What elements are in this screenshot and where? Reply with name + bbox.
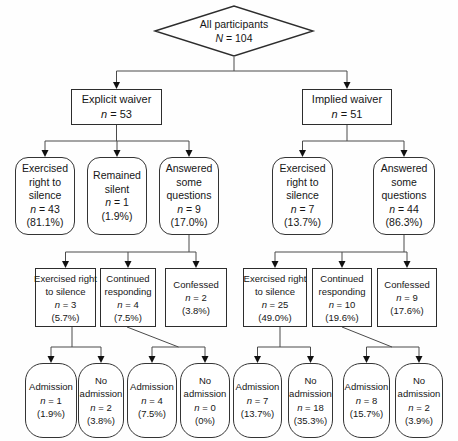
node-n-value: n = 8	[356, 394, 377, 408]
node-exercised-silence-implied: Exercised right to silence n = 7 (13.7%)	[272, 157, 333, 235]
node-no-admission-implied-responding: No admission n = 2 (3.9%)	[395, 363, 443, 438]
node-n-value: n = 1	[40, 394, 61, 408]
node-admission-explicit-responding: Admission n = 4 (7.5%)	[127, 363, 177, 438]
node-label: Answered some questions	[381, 162, 428, 203]
node-n-value: n = 53	[101, 107, 132, 122]
node-n-value: n = 9	[396, 291, 417, 304]
node-percent: (35.3%)	[294, 414, 327, 428]
flowchart-canvas: All participants N = 104 Explicit waiver…	[0, 0, 458, 441]
node-label: Remained silent	[93, 169, 141, 196]
node-label: Exercised right to silence	[244, 272, 307, 298]
node-n-value: n = 7	[291, 203, 315, 217]
connector-answered-explicit-to-outcomes	[62, 235, 200, 268]
node-percent: (81.1%)	[27, 216, 64, 230]
node-n-value: n = 2	[185, 291, 206, 304]
node-outcome-continued-responding-explicit: Continued responding n = 4 (7.5%)	[100, 268, 156, 327]
node-percent: (3.9%)	[405, 414, 433, 428]
node-admission-explicit-silence: Admission n = 1 (1.9%)	[25, 363, 77, 438]
node-label: Exercised right to silence	[22, 162, 68, 203]
node-label: Continued responding	[104, 272, 151, 298]
node-no-admission-explicit-silence: No admission n = 2 (3.8%)	[78, 363, 124, 438]
connector-root-to-waivers	[113, 57, 351, 89]
node-n-value: n = 2	[408, 401, 429, 415]
node-label: Exercised right to silence	[34, 272, 97, 298]
node-percent: (1.9%)	[102, 210, 133, 224]
node-percent: (3.8%)	[182, 304, 210, 317]
node-percent: (13.7%)	[241, 407, 274, 421]
node-label: Confessed	[384, 278, 429, 291]
connector-responding-implied-to-admissions	[342, 327, 423, 363]
node-label: Answered some questions	[166, 162, 213, 203]
node-n-value: n = 10	[329, 298, 356, 311]
node-exercised-silence-explicit: Exercised right to silence n = 43 (81.1%…	[15, 157, 75, 235]
connector-silence-explicit-to-admissions	[48, 327, 105, 363]
node-outcome-exercised-silence-implied: Exercised right to silence n = 25 (49.0%…	[243, 268, 307, 327]
node-all-participants: All participants N = 104	[164, 16, 304, 46]
node-percent: (17.0%)	[171, 216, 208, 230]
node-percent: (1.9%)	[37, 407, 65, 421]
connector-silence-implied-to-admissions	[254, 327, 314, 363]
node-label: Admission	[236, 380, 280, 394]
node-label: No admission	[80, 374, 123, 401]
node-percent: (7.5%)	[138, 407, 166, 421]
node-label: No admission	[398, 374, 441, 401]
node-n-value: n = 1	[105, 196, 129, 210]
node-label: Admission	[345, 380, 389, 394]
node-n-value: n = 7	[247, 394, 268, 408]
node-outcome-continued-responding-implied: Continued responding n = 10 (19.6%)	[312, 268, 372, 327]
node-explicit-waiver: Explicit waiver n = 53	[71, 89, 162, 125]
node-n-value: n = 4	[141, 394, 162, 408]
node-n-value: n = 43	[30, 203, 60, 217]
node-n-value: n = 9	[177, 203, 201, 217]
node-admission-implied-responding: Admission n = 8 (15.7%)	[343, 363, 390, 438]
node-outcome-exercised-silence-explicit: Exercised right to silence n = 3 (5.7%)	[35, 268, 96, 327]
node-implied-waiver: Implied waiver n = 51	[302, 89, 392, 125]
node-n-value: n = 18	[297, 401, 324, 415]
node-outcome-confessed-implied: Confessed n = 9 (17.6%)	[377, 268, 437, 327]
node-label: No admission	[289, 374, 332, 401]
node-no-admission-explicit-responding: No admission n = 0 (0%)	[180, 363, 230, 438]
node-n-value: n = 2	[90, 401, 111, 415]
node-outcome-confessed-explicit: Confessed n = 2 (3.8%)	[165, 268, 227, 327]
node-label: No admission	[184, 374, 227, 401]
node-percent: (5.7%)	[52, 311, 80, 324]
node-n-value: n = 4	[117, 298, 138, 311]
node-n-value: N = 104	[215, 31, 252, 45]
connector-answered-implied-to-outcomes	[272, 235, 411, 268]
node-label: Implied waiver	[312, 92, 382, 107]
node-label: Continued responding	[318, 272, 365, 298]
connector-responding-explicit-to-admissions	[127, 327, 209, 363]
node-n-value: n = 25	[262, 298, 289, 311]
node-label: All participants	[200, 17, 268, 31]
node-percent: (17.6%)	[390, 304, 423, 317]
node-percent: (49.0%)	[258, 311, 291, 324]
node-percent: (15.7%)	[350, 407, 383, 421]
node-label: Explicit waiver	[82, 92, 152, 107]
node-admission-implied-silence: Admission n = 7 (13.7%)	[233, 363, 282, 438]
connector-explicit-to-responses	[42, 125, 193, 157]
connector-implied-to-responses	[299, 125, 408, 157]
node-n-value: n = 44	[389, 203, 419, 217]
node-percent: (7.5%)	[114, 311, 142, 324]
node-label: Exercised right to silence	[279, 162, 325, 203]
node-label: Admission	[130, 380, 174, 394]
node-label: Confessed	[173, 278, 218, 291]
node-percent: (19.6%)	[325, 311, 358, 324]
node-percent: (13.7%)	[284, 216, 321, 230]
node-label: Admission	[29, 380, 73, 394]
node-n-value: n = 0	[194, 401, 215, 415]
node-answered-some-explicit: Answered some questions n = 9 (17.0%)	[159, 157, 219, 235]
node-answered-some-implied: Answered some questions n = 44 (86.3%)	[373, 157, 435, 235]
node-n-value: n = 3	[55, 298, 76, 311]
node-no-admission-implied-silence: No admission n = 18 (35.3%)	[288, 363, 333, 438]
node-n-value: n = 51	[332, 107, 363, 122]
node-percent: (0%)	[195, 414, 215, 428]
node-remained-silent: Remained silent n = 1 (1.9%)	[87, 157, 147, 235]
node-percent: (3.8%)	[87, 414, 115, 428]
node-percent: (86.3%)	[386, 216, 423, 230]
